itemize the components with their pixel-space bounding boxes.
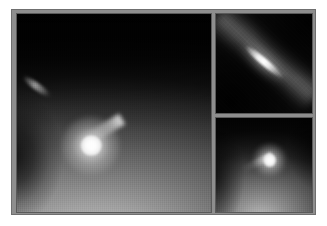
wide-field-panel[interactable] (16, 13, 212, 213)
main-detector-noise (17, 14, 211, 212)
detail-bottom-detector-noise (216, 118, 312, 212)
detail-panel-lower-right[interactable] (215, 117, 313, 213)
detail-top-detector-noise (216, 14, 312, 113)
figure-root (0, 0, 327, 226)
detail-panel-upper-right[interactable] (215, 13, 313, 114)
composite-frame (11, 9, 316, 215)
